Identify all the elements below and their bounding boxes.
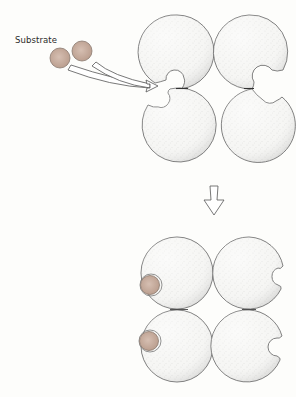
transition-arrow-down-icon — [204, 186, 224, 215]
enzyme-tetramer-bound — [139, 237, 283, 382]
enzyme-tetramer-unbound — [138, 15, 295, 162]
enzyme-diagram-svg — [0, 0, 296, 397]
subunit-top-left-bound — [141, 237, 213, 309]
diagram-canvas: Substrate — [0, 0, 296, 397]
subunit-bottom-right — [221, 89, 295, 162]
bound-substrate-group — [139, 274, 162, 352]
substrate-molecule — [50, 48, 70, 68]
subunit-top-left — [138, 15, 214, 89]
subunit-bottom-left — [142, 88, 216, 162]
bound-substrate-molecule — [141, 276, 160, 295]
free-substrate-group — [50, 41, 92, 68]
substrate-molecule — [72, 41, 92, 61]
subunit-top-right-open — [213, 237, 283, 309]
bound-substrate-molecule — [140, 332, 159, 351]
subunit-top-right — [213, 15, 287, 89]
subunit-bottom-right-open — [211, 310, 282, 382]
